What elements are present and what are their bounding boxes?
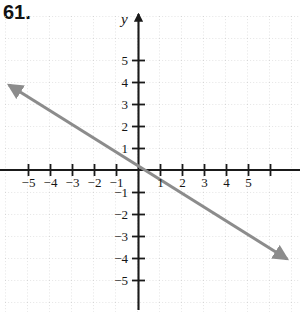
y-tick-label-5: 5 xyxy=(104,54,128,67)
x-tick-label-2: 2 xyxy=(174,176,191,189)
y-tick-label-2: 2 xyxy=(104,120,128,133)
y-tick-label-1: 1 xyxy=(104,142,128,155)
y-tick-label-3: 3 xyxy=(104,98,128,111)
coordinate-plane xyxy=(0,0,300,312)
x-tick-label-1: 1 xyxy=(152,176,169,189)
x-tick-label-4: 4 xyxy=(218,176,235,189)
y-tick-label--5: −5 xyxy=(100,274,128,287)
grid-pattern xyxy=(5,16,299,312)
y-tick-label--1: −1 xyxy=(100,186,128,199)
figure-root: 61. xyxy=(0,0,300,312)
y-axis-label: y xyxy=(121,12,128,27)
x-tick-label-5: 5 xyxy=(240,176,257,189)
x-tick-label-3: 3 xyxy=(196,176,213,189)
y-tick-label--3: −3 xyxy=(100,230,128,243)
y-tick-label--4: −4 xyxy=(100,252,128,265)
y-tick-label-4: 4 xyxy=(104,76,128,89)
graph-svg xyxy=(0,0,300,312)
y-tick-label--2: −2 xyxy=(100,208,128,221)
